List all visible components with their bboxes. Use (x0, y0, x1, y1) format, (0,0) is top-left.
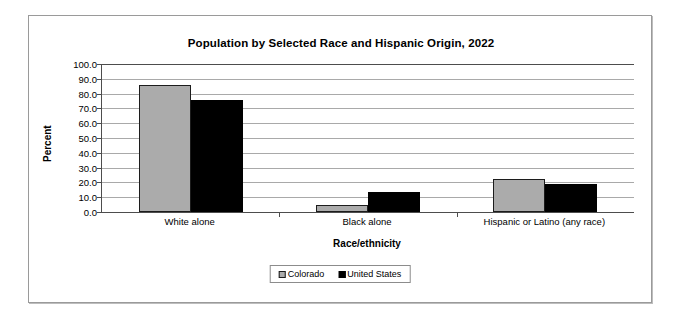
bar-united-states[interactable] (191, 100, 243, 212)
y-axis-tick-label: 30.0 (55, 162, 97, 173)
x-axis-tick-label: White alone (165, 216, 215, 227)
x-axis-title: Race/ethnicity (101, 238, 633, 249)
x-axis-tick-labels: White aloneBlack aloneHispanic or Latino… (101, 216, 633, 232)
legend-label: United States (347, 269, 401, 279)
chart-title: Population by Selected Race and Hispanic… (29, 37, 653, 49)
y-axis-title: Percent (41, 104, 55, 184)
x-axis-tick-label: Hispanic or Latino (any race) (484, 216, 605, 227)
y-axis-tick-label: 20.0 (55, 177, 97, 188)
bar-group (316, 64, 420, 212)
y-axis-tick-label: 80.0 (55, 88, 97, 99)
y-axis-tick-label: 60.0 (55, 118, 97, 129)
y-axis-tick-label: 10.0 (55, 192, 97, 203)
chart-frame: Population by Selected Race and Hispanic… (28, 15, 652, 303)
bar-group (493, 64, 597, 212)
bar-united-states[interactable] (545, 184, 597, 212)
y-axis-tick-label: 90.0 (55, 73, 97, 84)
bar-united-states[interactable] (368, 192, 420, 212)
y-axis-tick-label: 70.0 (55, 103, 97, 114)
bar-colorado[interactable] (316, 205, 368, 212)
x-axis-tick-label: Black alone (342, 216, 391, 227)
y-axis-tick-labels: 100.090.080.070.060.050.040.030.020.010.… (55, 57, 97, 213)
legend-entry-united-states[interactable]: United States (338, 269, 401, 279)
bar-group (139, 64, 243, 212)
y-axis-tick-label: 100.0 (55, 59, 97, 70)
y-axis-tick-label: 50.0 (55, 133, 97, 144)
chart-legend: ColoradoUnited States (270, 265, 411, 283)
bar-colorado[interactable] (493, 179, 545, 212)
bars-layer (102, 64, 634, 212)
plot-area (101, 64, 634, 213)
y-axis-tickmark (97, 212, 102, 213)
y-axis-tick-label: 0.0 (55, 207, 97, 218)
legend-swatch-icon (279, 271, 286, 278)
legend-swatch-icon (338, 271, 345, 278)
legend-entry-colorado[interactable]: Colorado (279, 269, 325, 279)
legend-label: Colorado (288, 269, 325, 279)
y-axis-tick-label: 40.0 (55, 147, 97, 158)
bar-colorado[interactable] (139, 85, 191, 212)
